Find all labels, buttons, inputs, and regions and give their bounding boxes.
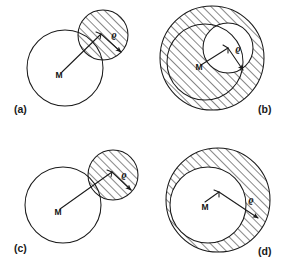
panel-a-center-label: M (55, 70, 62, 80)
panel-d-label: (d) (258, 245, 271, 257)
panel-d-annulus-hatch (164, 146, 274, 256)
figure-canvas: M ϱ (a) M ϱ (b) (0, 0, 290, 273)
panel-a-radius-label: ϱ (111, 29, 117, 40)
panel-d: M ϱ (d) (164, 146, 274, 257)
panel-d-center-label: M (201, 202, 208, 212)
panel-b-radius-label: ϱ (235, 43, 241, 54)
panel-b: M ϱ (b) (158, 4, 271, 115)
panel-b-hatch-region (158, 4, 268, 114)
panel-b-label: (b) (258, 103, 271, 115)
panel-b-center-label: M (195, 62, 202, 72)
panel-d-radius-label: ϱ (248, 194, 254, 205)
panel-c-radius-label: ϱ (121, 169, 127, 180)
panel-a-label: (a) (14, 103, 27, 115)
panel-c-label: (c) (14, 242, 27, 254)
panel-c-center-label: M (54, 207, 61, 217)
geometry-figure: M ϱ (a) M ϱ (b) (0, 0, 290, 273)
